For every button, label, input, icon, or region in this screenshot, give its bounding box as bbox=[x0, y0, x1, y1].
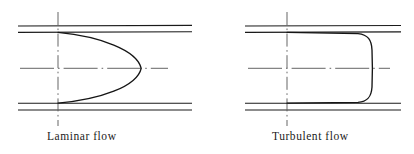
laminar-flow-caption: Laminar flow bbox=[47, 130, 117, 143]
turbulent-wall-top-outer bbox=[245, 26, 401, 27]
laminar-wall-top-outer bbox=[18, 25, 192, 26]
turbulent-wall-top-inner bbox=[245, 32, 401, 33]
turbulent-flow-caption: Turbulent flow bbox=[272, 130, 349, 143]
laminar-wall-top-inner bbox=[18, 32, 192, 33]
